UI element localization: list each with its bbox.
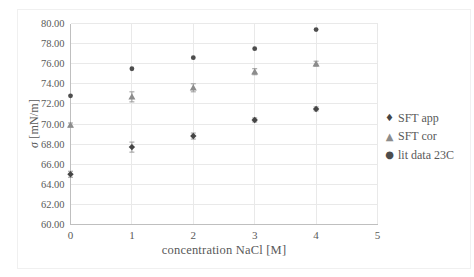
y-tick-label: 66.00 <box>41 159 65 170</box>
sigma-symbol: σ <box>27 142 41 148</box>
y-tick-label: 80.00 <box>41 18 65 29</box>
y-tick-label: 64.00 <box>41 179 65 190</box>
chart: 80.0078.0076.0074.0072.0070.0068.0066.00… <box>0 0 474 277</box>
legend-item-sft-cor: ▲ SFT cor <box>384 128 454 147</box>
x-tick-label: 4 <box>313 229 319 241</box>
point-sft-cor-1 <box>128 93 135 99</box>
legend: ♦ SFT app ▲ SFT cor ● lit data 23C <box>384 109 454 165</box>
point-lit-data-23c-2 <box>191 55 196 60</box>
y-tick-label: 74.00 <box>41 78 65 89</box>
y-tick-label: 70.00 <box>41 119 65 130</box>
legend-label-sft-cor: SFT cor <box>398 129 437 144</box>
point-lit-data-23c-3 <box>252 46 257 51</box>
y-tick-label: 62.00 <box>41 199 65 210</box>
point-sft-app-0 <box>67 171 73 177</box>
x-tick-label: 3 <box>252 229 258 241</box>
point-lit-data-23c-0 <box>68 93 73 98</box>
point-sft-app-2 <box>190 133 196 139</box>
legend-label-sft-app: SFT app <box>398 111 439 126</box>
circle-icon: ● <box>384 150 395 160</box>
x-tick-label: 0 <box>68 229 74 241</box>
y-tick-label: 60.00 <box>41 219 65 230</box>
legend-item-sft-app: ♦ SFT app <box>384 109 454 128</box>
legend-item-lit-data: ● lit data 23C <box>384 146 454 165</box>
point-sft-cor-0 <box>67 122 74 128</box>
x-axis-title: concentration NaCl [M] <box>70 243 378 258</box>
y-tick-label: 76.00 <box>41 58 65 69</box>
y-tick-label: 72.00 <box>41 98 65 109</box>
y-axis-title: σ [mN/m] <box>27 54 42 194</box>
diamond-icon: ♦ <box>384 113 395 123</box>
point-sft-app-1 <box>129 144 135 150</box>
point-sft-cor-2 <box>190 84 197 90</box>
x-tick-label: 1 <box>129 229 135 241</box>
point-lit-data-23c-1 <box>130 66 135 71</box>
x-tick-label: 2 <box>191 229 197 241</box>
point-lit-data-23c-4 <box>314 27 319 32</box>
x-tick-label: 5 <box>375 229 381 241</box>
y-tick-label: 78.00 <box>41 38 65 49</box>
triangle-icon: ▲ <box>384 132 395 142</box>
y-tick-label: 68.00 <box>41 139 65 150</box>
y-axis-unit: [mN/m] <box>27 99 41 142</box>
legend-label-lit-data: lit data 23C <box>398 148 454 163</box>
